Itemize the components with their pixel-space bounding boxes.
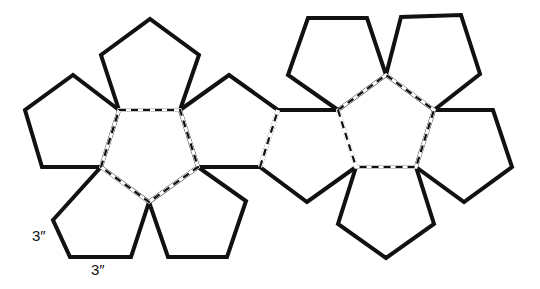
right-bottom-face: [338, 167, 434, 258]
dodecahedron-net-diagram: 3″ 3″: [0, 0, 540, 289]
side-length-label-vertical: 3″: [32, 227, 46, 244]
side-length-label-horizontal: 3″: [91, 261, 105, 278]
fold-lines: [101, 75, 434, 202]
left-lower-left-face: [53, 167, 149, 257]
left-top-face: [101, 19, 199, 110]
right-upper-left-face: [288, 18, 386, 110]
left-lower-right-face: [149, 167, 246, 257]
right-upper-right-face: [386, 15, 480, 110]
